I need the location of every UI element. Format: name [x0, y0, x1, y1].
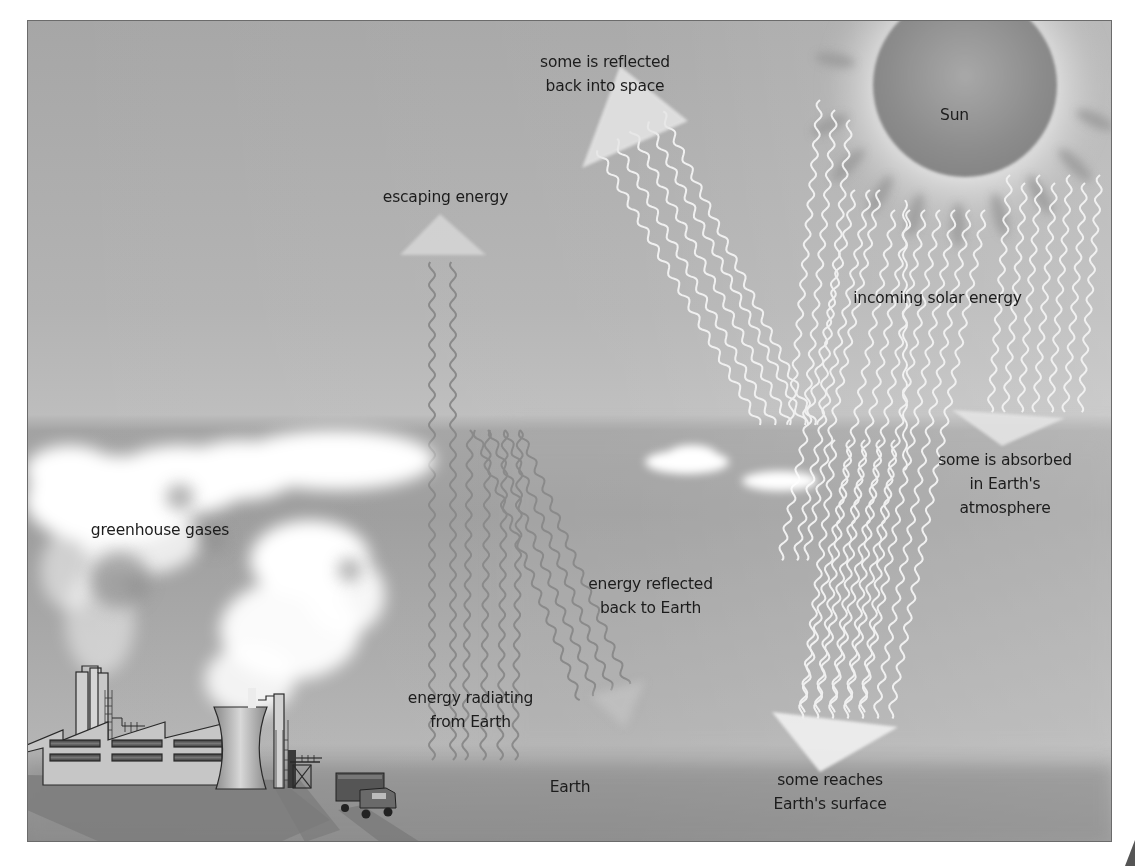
label-line: in Earth's [925, 472, 1085, 496]
label-energy-reflected-back-to-earth: energy reflected back to Earth [578, 572, 723, 620]
label-line: Earth's surface [755, 792, 905, 816]
greenhouse-diagram: Sun some is reflected back into space es… [0, 0, 1135, 866]
label-escaping-energy: escaping energy [373, 185, 518, 209]
label-line: some reaches [755, 768, 905, 792]
label-absorbed-atmosphere: some is absorbed in Earth's atmosphere [925, 448, 1085, 520]
label-line: energy radiating [398, 686, 543, 710]
label-reaches-surface: some reaches Earth's surface [755, 768, 905, 816]
label-line: from Earth [398, 710, 543, 734]
label-greenhouse-gases: greenhouse gases [80, 518, 240, 542]
page-corner-fragment [1125, 840, 1135, 866]
label-energy-radiating-from-earth: energy radiating from Earth [398, 686, 543, 734]
label-line: some is absorbed [925, 448, 1085, 472]
label-incoming-solar-energy: incoming solar energy [840, 286, 1035, 310]
label-earth: Earth [530, 775, 610, 799]
label-reflected-into-space: some is reflected back into space [520, 50, 690, 98]
label-line: some is reflected [520, 50, 690, 74]
label-line: back into space [520, 74, 690, 98]
label-sun: Sun [940, 103, 969, 127]
diagram-canvas [0, 0, 1135, 866]
label-line: back to Earth [578, 596, 723, 620]
label-line: atmosphere [925, 496, 1085, 520]
label-line: energy reflected [578, 572, 723, 596]
